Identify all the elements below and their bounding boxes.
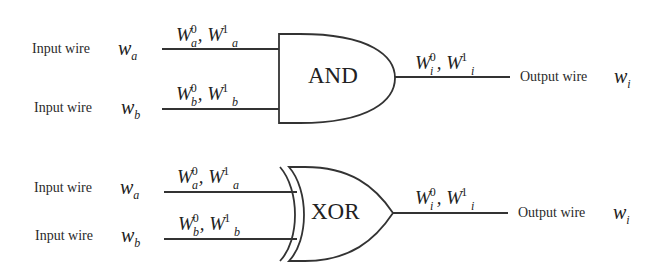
and-input-a-label: Input wire xyxy=(32,41,90,57)
and-input-a-wire-name: wa xyxy=(118,37,137,64)
xor-input-b-keys: W0b, W1b xyxy=(178,214,231,233)
xor-input-a-keys: W0a, W1a xyxy=(177,167,230,186)
and-input-b-wire-name: wb xyxy=(121,96,140,123)
xor-output-keys: W0i, W1i xyxy=(415,188,468,207)
and-gate-label: AND xyxy=(308,63,358,89)
xor-output-label: Output wire xyxy=(518,205,585,221)
and-input-b-keys: W0b, W1b xyxy=(176,84,229,103)
xor-output-wire-name: wi xyxy=(613,201,630,228)
xor-extra-curve xyxy=(280,167,295,261)
and-output-label: Output wire xyxy=(520,69,587,85)
circuit-diagram xyxy=(0,0,668,277)
xor-input-a-wire-name: wa xyxy=(120,176,139,203)
and-output-keys: W0i, W1i xyxy=(415,53,468,72)
xor-input-b-wire-name: wb xyxy=(121,224,140,251)
and-input-b-label: Input wire xyxy=(34,100,92,116)
xor-gate-label: XOR xyxy=(311,199,360,225)
and-input-a-keys: W0a, W1a xyxy=(176,25,229,44)
xor-input-a-label: Input wire xyxy=(34,180,92,196)
xor-input-b-label: Input wire xyxy=(35,228,93,244)
and-output-wire-name: wi xyxy=(614,65,631,92)
